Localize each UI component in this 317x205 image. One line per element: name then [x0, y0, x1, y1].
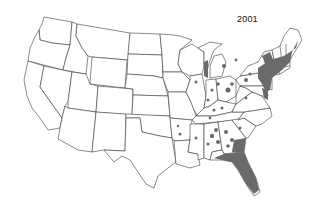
- shade-lake-michigan: [204, 60, 208, 78]
- us-states-outline-map: [0, 0, 317, 205]
- state-wyoming: [90, 57, 127, 88]
- state-arkansas: [170, 118, 192, 141]
- state-arizona: [58, 106, 96, 152]
- shade-florida: [214, 152, 259, 194]
- state-kansas: [132, 95, 170, 116]
- shade-georgia-coast: [232, 138, 246, 152]
- year-label: 2001: [237, 14, 258, 24]
- state-north-dakota: [128, 33, 162, 55]
- state-colorado: [96, 86, 133, 115]
- us-map: 2001: [0, 0, 317, 205]
- state-iowa: [163, 72, 190, 92]
- state-new-mexico: [92, 112, 126, 152]
